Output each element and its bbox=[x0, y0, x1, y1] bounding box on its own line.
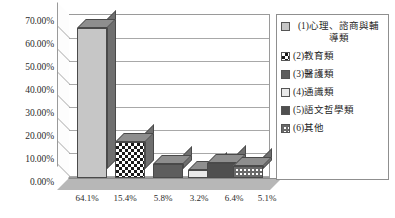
y-axis-tick-label: 20.00% bbox=[0, 131, 54, 141]
y-axis-tick-label: 70.00% bbox=[0, 16, 54, 26]
legend-label-series-4: (4)通識類 bbox=[293, 86, 384, 98]
legend-label-series-6: (6)其他 bbox=[293, 122, 384, 134]
data-label-series-2: 15.4% bbox=[103, 192, 147, 204]
side-wall-rung bbox=[58, 95, 70, 108]
legend-label-series-1: (1)心理、諮商與輔導類 bbox=[293, 20, 384, 44]
y-axis-tick-label: 60.00% bbox=[0, 39, 54, 49]
bar-series-2 bbox=[115, 142, 145, 178]
data-label-series-4: 3.2% bbox=[179, 192, 219, 204]
side-wall-rung bbox=[58, 141, 70, 154]
side-wall-rung bbox=[58, 49, 70, 62]
chart-floor bbox=[57, 178, 270, 190]
legend-label-series-5: (5)語文哲學類 bbox=[293, 104, 384, 116]
legend-swatch-series-6 bbox=[281, 124, 290, 133]
side-wall-rung bbox=[58, 164, 70, 177]
legend-item-series-3: (3)醫護類 bbox=[281, 68, 384, 80]
legend-swatch-series-2 bbox=[281, 52, 290, 61]
legend-swatch-series-1 bbox=[281, 22, 290, 31]
bar-series-6 bbox=[233, 166, 263, 178]
x-axis: 64.1% 15.4% 5.8% 3.2% 6.4% 5.1% bbox=[57, 192, 270, 208]
legend-item-series-1: (1)心理、諮商與輔導類 bbox=[281, 20, 384, 44]
plot-area bbox=[57, 14, 270, 190]
legend-swatch-series-3 bbox=[281, 70, 290, 79]
legend-label-series-3: (3)醫護類 bbox=[293, 68, 384, 80]
data-label-series-6: 5.1% bbox=[247, 192, 287, 204]
y-axis-tick-label: 10.00% bbox=[0, 154, 54, 164]
legend-item-series-6: (6)其他 bbox=[281, 122, 384, 134]
legend-swatch-series-4 bbox=[281, 88, 290, 97]
legend-item-series-4: (4)通識類 bbox=[281, 86, 384, 98]
legend-item-series-5: (5)語文哲學類 bbox=[281, 104, 384, 116]
bar-front-face bbox=[153, 164, 183, 178]
chart-figure: 70.00% 60.00% 50.00% 40.00% 30.00% 20.00… bbox=[0, 0, 395, 218]
side-wall-rung bbox=[58, 72, 70, 85]
y-axis-tick-label: 30.00% bbox=[0, 108, 54, 118]
y-axis-tick-label: 50.00% bbox=[0, 62, 54, 72]
side-wall-rung bbox=[58, 26, 70, 39]
chart-legend: (1)心理、諮商與輔導類 (2)教育類 (3)醫護類 (4)通識類 (5)語文哲… bbox=[276, 14, 389, 180]
legend-item-series-2: (2)教育類 bbox=[281, 50, 384, 62]
side-wall-rung bbox=[58, 118, 70, 131]
bar-front-face bbox=[77, 28, 107, 178]
y-axis: 70.00% 60.00% 50.00% 40.00% 30.00% 20.00… bbox=[0, 16, 56, 186]
chart-side-wall bbox=[57, 2, 69, 178]
bar-series-1 bbox=[77, 28, 107, 178]
bar-series-3 bbox=[153, 164, 183, 178]
y-axis-tick-label: 40.00% bbox=[0, 85, 54, 95]
chart-floor-surface bbox=[57, 178, 282, 190]
data-label-series-3: 5.8% bbox=[143, 192, 183, 204]
y-axis-tick-label: 0.00% bbox=[0, 177, 54, 187]
legend-label-series-2: (2)教育類 bbox=[293, 50, 384, 62]
bar-front-face bbox=[233, 166, 263, 178]
bar-front-face bbox=[115, 142, 145, 178]
legend-swatch-series-5 bbox=[281, 106, 290, 115]
